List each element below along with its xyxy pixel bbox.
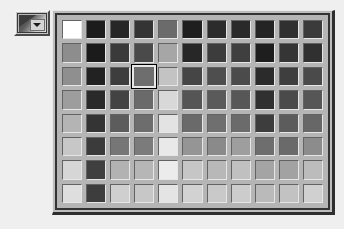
color-swatch[interactable]	[229, 158, 253, 181]
color-swatch[interactable]	[84, 18, 108, 41]
color-swatch[interactable]	[229, 182, 253, 205]
color-swatch[interactable]	[180, 135, 204, 158]
color-swatch[interactable]	[229, 18, 253, 41]
color-swatch[interactable]	[229, 41, 253, 64]
color-swatch[interactable]	[253, 41, 277, 64]
color-swatch[interactable]	[108, 135, 132, 158]
color-swatch[interactable]	[301, 88, 325, 111]
color-swatch[interactable]	[301, 18, 325, 41]
color-swatch[interactable]	[60, 112, 84, 135]
color-swatch-grid[interactable]	[59, 17, 326, 206]
color-swatch[interactable]	[84, 158, 108, 181]
color-swatch[interactable]	[253, 18, 277, 41]
color-swatch-fill	[110, 90, 130, 109]
palette-button-inner	[17, 13, 47, 33]
color-swatch[interactable]	[84, 41, 108, 64]
color-swatch[interactable]	[301, 65, 325, 88]
color-swatch[interactable]	[253, 112, 277, 135]
color-swatch[interactable]	[132, 158, 156, 181]
color-swatch[interactable]	[132, 112, 156, 135]
palette-dropdown-button[interactable]	[14, 10, 50, 36]
color-swatch[interactable]	[132, 88, 156, 111]
color-swatch[interactable]	[180, 41, 204, 64]
color-swatch[interactable]	[180, 65, 204, 88]
color-swatch[interactable]	[301, 41, 325, 64]
color-swatch[interactable]	[229, 88, 253, 111]
color-swatch[interactable]	[156, 65, 180, 88]
color-swatch[interactable]	[180, 158, 204, 181]
color-swatch[interactable]	[84, 65, 108, 88]
color-swatch-fill	[207, 160, 227, 179]
color-swatch[interactable]	[277, 65, 301, 88]
color-swatch[interactable]	[156, 135, 180, 158]
color-swatch[interactable]	[84, 182, 108, 205]
color-swatch[interactable]	[156, 182, 180, 205]
color-swatch[interactable]	[60, 41, 84, 64]
color-swatch[interactable]	[84, 88, 108, 111]
color-swatch[interactable]	[156, 88, 180, 111]
color-swatch[interactable]	[60, 18, 84, 41]
color-swatch[interactable]	[277, 135, 301, 158]
color-swatch[interactable]	[108, 65, 132, 88]
dropdown-arrow-icon[interactable]	[30, 19, 45, 31]
color-swatch[interactable]	[277, 112, 301, 135]
color-swatch[interactable]	[180, 18, 204, 41]
color-swatch[interactable]	[253, 182, 277, 205]
color-swatch[interactable]	[156, 41, 180, 64]
color-swatch[interactable]	[156, 158, 180, 181]
color-swatch-fill	[207, 184, 227, 203]
color-swatch[interactable]	[277, 18, 301, 41]
color-swatch[interactable]	[205, 65, 229, 88]
color-swatch[interactable]	[180, 112, 204, 135]
color-swatch[interactable]	[84, 135, 108, 158]
color-swatch[interactable]	[253, 135, 277, 158]
color-swatch-fill	[231, 184, 251, 203]
color-swatch[interactable]	[253, 88, 277, 111]
color-swatch-fill	[255, 20, 275, 39]
color-swatch[interactable]	[277, 158, 301, 181]
color-swatch[interactable]	[205, 182, 229, 205]
color-swatch[interactable]	[301, 158, 325, 181]
color-swatch-fill	[303, 160, 323, 179]
color-swatch[interactable]	[205, 135, 229, 158]
color-swatch[interactable]	[205, 88, 229, 111]
color-swatch[interactable]	[277, 41, 301, 64]
color-swatch[interactable]	[229, 112, 253, 135]
color-swatch[interactable]	[60, 88, 84, 111]
color-swatch[interactable]	[156, 112, 180, 135]
color-swatch[interactable]	[108, 18, 132, 41]
color-swatch[interactable]	[108, 88, 132, 111]
color-swatch[interactable]	[108, 182, 132, 205]
color-swatch[interactable]	[84, 112, 108, 135]
color-swatch[interactable]	[301, 112, 325, 135]
color-swatch[interactable]	[108, 112, 132, 135]
color-swatch[interactable]	[253, 158, 277, 181]
color-swatch[interactable]	[132, 41, 156, 64]
color-swatch-fill	[134, 137, 154, 156]
color-swatch[interactable]	[108, 158, 132, 181]
color-swatch[interactable]	[132, 182, 156, 205]
color-swatch[interactable]	[301, 182, 325, 205]
color-swatch[interactable]	[60, 158, 84, 181]
color-swatch[interactable]	[277, 182, 301, 205]
color-swatch[interactable]	[301, 135, 325, 158]
color-swatch[interactable]	[205, 112, 229, 135]
color-swatch[interactable]	[205, 18, 229, 41]
color-swatch[interactable]	[132, 18, 156, 41]
color-swatch[interactable]	[108, 41, 132, 64]
color-swatch[interactable]	[205, 158, 229, 181]
color-swatch[interactable]	[60, 182, 84, 205]
color-swatch[interactable]	[229, 65, 253, 88]
color-swatch[interactable]	[156, 18, 180, 41]
color-swatch[interactable]	[229, 135, 253, 158]
color-swatch[interactable]	[277, 88, 301, 111]
color-swatch[interactable]	[205, 41, 229, 64]
color-swatch[interactable]	[180, 88, 204, 111]
color-swatch[interactable]	[60, 65, 84, 88]
color-swatch[interactable]	[132, 135, 156, 158]
color-swatch[interactable]	[180, 182, 204, 205]
color-swatch[interactable]	[60, 135, 84, 158]
color-swatch-fill	[255, 114, 275, 133]
color-swatch[interactable]	[253, 65, 277, 88]
color-swatch-selected[interactable]	[132, 65, 156, 88]
